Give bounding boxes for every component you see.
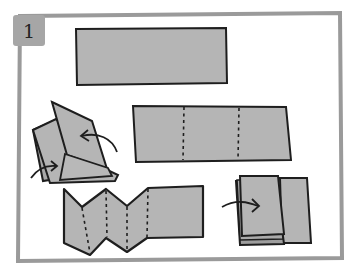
flat-strip <box>76 28 227 85</box>
step-number-badge: 1 <box>13 15 45 46</box>
stacked-pages <box>222 176 311 245</box>
instruction-panel <box>0 0 355 274</box>
strip-with-fold-lines <box>133 106 291 162</box>
folded-booklet <box>31 102 118 183</box>
step-number: 1 <box>23 20 35 42</box>
zigzag-accordion <box>64 186 203 255</box>
